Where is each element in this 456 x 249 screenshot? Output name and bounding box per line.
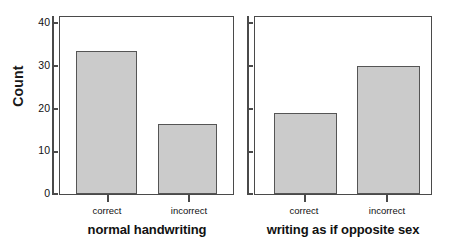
y-tick-label-10: 10	[24, 145, 50, 155]
left-x-label-correct: correct	[82, 205, 132, 216]
right-y-tick-10	[247, 151, 253, 153]
left-y-tick-10	[52, 151, 58, 153]
left-x-tick-correct	[107, 195, 109, 202]
left-y-tick-40	[52, 22, 58, 24]
right-y-tick-40	[247, 22, 253, 24]
left-panel-y-spine	[52, 16, 54, 195]
panel-title-normal-handwriting: normal handwriting	[54, 222, 240, 237]
bar-opposite-incorrect[interactable]	[357, 66, 420, 194]
y-tick-label-20: 20	[24, 103, 50, 113]
bar-opposite-correct[interactable]	[274, 113, 337, 194]
right-y-tick-30	[247, 65, 253, 67]
right-x-label-correct: correct	[279, 205, 329, 216]
panel-title-opposite-sex: writing as if opposite sex	[237, 222, 449, 237]
y-tick-label-30: 30	[24, 60, 50, 70]
left-y-tick-0	[52, 193, 58, 195]
left-plot-area	[60, 17, 233, 194]
bar-normal-correct[interactable]	[76, 51, 137, 194]
left-y-tick-20	[52, 108, 58, 110]
left-x-tick-incorrect	[188, 195, 190, 202]
panel-opposite-sex	[254, 16, 432, 195]
y-tick-label-40: 40	[24, 17, 50, 27]
right-x-tick-incorrect	[386, 195, 388, 202]
left-x-label-incorrect: incorrect	[161, 205, 217, 216]
bar-normal-incorrect[interactable]	[158, 124, 217, 194]
y-tick-label-0: 0	[24, 188, 50, 198]
y-axis-tick-labels: 40 30 20 10 0	[22, 0, 50, 249]
right-y-tick-20	[247, 108, 253, 110]
right-x-tick-correct	[304, 195, 306, 202]
right-plot-area	[255, 17, 431, 194]
right-y-tick-0	[247, 193, 253, 195]
left-y-tick-30	[52, 65, 58, 67]
right-x-label-incorrect: incorrect	[359, 205, 415, 216]
panel-normal-handwriting	[59, 16, 234, 195]
bar-chart-figure: Count 40 30 20 10 0 correct incorrect no…	[0, 0, 456, 249]
right-panel-y-spine	[247, 16, 249, 195]
